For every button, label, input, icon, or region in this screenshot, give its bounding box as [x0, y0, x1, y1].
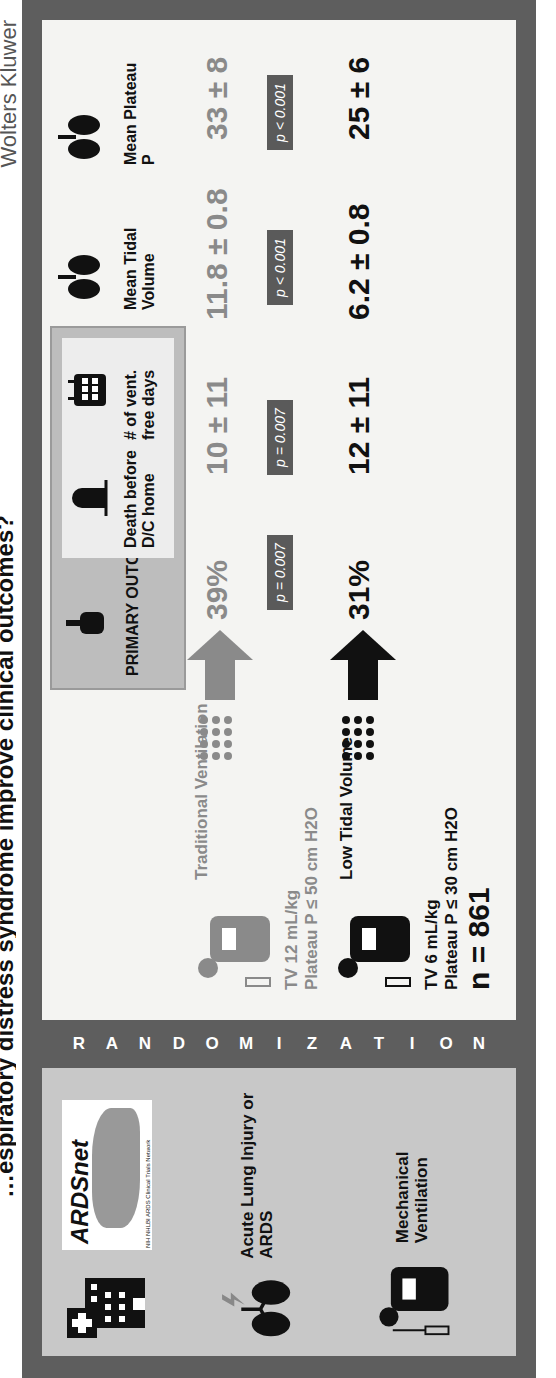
p-value-plateau: p < 0.001 [267, 75, 293, 150]
p-value-tidal-volume: p < 0.001 [267, 230, 293, 305]
pointing-hand-icon [66, 608, 106, 638]
rand-letter: M [238, 1034, 252, 1054]
patient-population-panel: ARDSnet NIH NHLBI ARDS Clinical Trials N… [42, 1068, 516, 1356]
calendar-icon [68, 372, 108, 408]
ventilator-patient-icon-grey [192, 910, 272, 990]
p-value-vent-free: p = 0.007 [267, 400, 293, 475]
rand-letter: O [439, 1034, 452, 1054]
ardsnet-logo: ARDSnet NIH NHLBI ARDS Clinical Trials N… [62, 1100, 152, 1250]
traditional-vent-free-value: 10 ± 11 [200, 377, 234, 475]
traditional-settings-plateau: Plateau P ≤ 50 cm H2O [302, 807, 321, 990]
vent-free-days-header: # of vent. free days [122, 340, 158, 440]
low-tidal-settings-plateau: Plateau P ≤ 30 cm H2O [442, 807, 461, 990]
rand-letter: N [139, 1034, 151, 1054]
rand-letter: O [206, 1034, 219, 1054]
low-tidal-vent-free-value: 12 ± 11 [342, 377, 376, 475]
logo-subtitle: NIH NHLBI ARDS Clinical Trials Network [145, 1140, 151, 1248]
ventilator-patient-icon [372, 1261, 452, 1338]
arrow-right-grey-icon [187, 630, 253, 700]
mean-tidal-volume-header: Mean Tidal Volume [122, 200, 158, 310]
rand-letter: I [410, 1034, 415, 1054]
infographic-canvas: …espiratory distress syndrome improve cl… [0, 0, 556, 1378]
mean-plateau-p-header: Mean Plateau P [122, 55, 158, 165]
randomization-strip: R A N D O M I Z A T I O N [22, 1020, 536, 1068]
frame: ARDSnet NIH NHLBI ARDS Clinical Trials N… [22, 0, 536, 1378]
arrow-right-black-icon [330, 630, 396, 700]
low-tidal-tidal-volume-value: 6.2 ± 0.8 [342, 203, 376, 320]
ards-label: Acute Lung Injury or ARDS [238, 1068, 276, 1259]
sample-size: n = 861 [462, 887, 496, 990]
traditional-settings-tv: TV 12 mL/kg [282, 890, 301, 990]
title: …espiratory distress syndrome improve cl… [0, 0, 16, 1378]
rand-letter: N [473, 1034, 485, 1054]
traditional-tidal-volume-value: 11.8 ± 0.8 [200, 188, 234, 320]
row-ards: Acute Lung Injury or ARDS [217, 1068, 297, 1338]
publisher-logo: Wolters Kluwer [0, 20, 22, 168]
primary-outcomes-inner: Death before D/C home # of vent. free da… [62, 338, 174, 558]
traditional-plateau-value: 33 ± 8 [200, 57, 234, 140]
primary-outcomes-box: PRIMARY OUTCOMES Death before D/C home #… [50, 326, 186, 690]
lungs-lightning-icon [217, 1277, 297, 1338]
low-tidal-death-value: 31% [342, 560, 376, 620]
dots-grey [200, 716, 232, 760]
lungs-icon [56, 254, 102, 300]
rand-letter: A [106, 1034, 118, 1054]
rand-letter: I [277, 1034, 282, 1054]
lungs-icon [56, 114, 102, 160]
low-tidal-plateau-value: 25 ± 6 [342, 57, 376, 140]
ventilator-patient-icon [332, 910, 412, 990]
p-value-death: p = 0.007 [267, 535, 293, 610]
traditional-death-value: 39% [200, 560, 234, 620]
dots-black [342, 716, 374, 760]
rand-letter: Z [307, 1034, 317, 1054]
death-before-dc-header: Death before D/C home [122, 438, 158, 548]
row-hospital: ARDSnet NIH NHLBI ARDS Clinical Trials N… [62, 1100, 152, 1338]
rand-letter: T [374, 1034, 384, 1054]
hospital-icon [67, 1268, 147, 1338]
trial-results-panel: PRIMARY OUTCOMES Death before D/C home #… [42, 20, 516, 1020]
tombstone-icon [68, 476, 108, 520]
row-mechanical-ventilation: Mechanical Ventilation [372, 1068, 452, 1338]
rand-letter: R [73, 1034, 85, 1054]
logo-name: ARDSnet [66, 1140, 94, 1244]
rand-letter: D [173, 1034, 185, 1054]
mechanical-ventilation-label: Mechanical Ventilation [393, 1068, 431, 1243]
low-tidal-settings-tv: TV 6 mL/kg [422, 899, 441, 990]
rand-letter: A [340, 1034, 352, 1054]
us-map-graphic [92, 1108, 140, 1228]
